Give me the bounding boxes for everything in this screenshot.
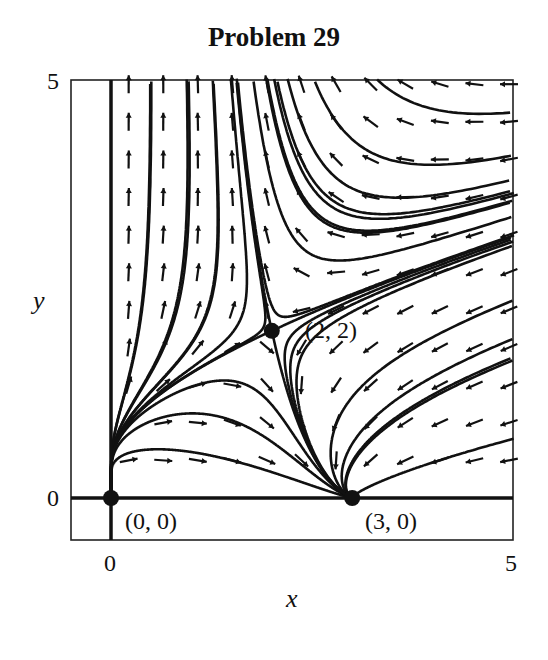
- equilibrium-point: [264, 323, 280, 339]
- label-origin: (0, 0): [125, 508, 177, 535]
- phase-plot: [0, 0, 548, 660]
- y-tick-0: 0: [47, 485, 59, 512]
- direction-field: [120, 75, 518, 469]
- label-3-0: (3, 0): [365, 508, 417, 535]
- x-axis-label: x: [286, 584, 298, 614]
- equilibrium-point: [103, 490, 119, 506]
- x-tick-5: 5: [505, 550, 517, 577]
- solution-curves: [111, 79, 514, 498]
- x-tick-0: 0: [104, 550, 116, 577]
- equilibrium-point: [344, 490, 360, 506]
- y-axis-label: y: [33, 286, 45, 316]
- label-2-2: (2, 2): [305, 317, 357, 344]
- y-tick-5: 5: [47, 68, 59, 95]
